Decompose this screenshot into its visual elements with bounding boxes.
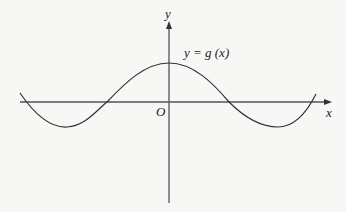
origin-label: O: [156, 104, 166, 119]
curve-g: [20, 63, 316, 127]
y-axis-arrow-icon: [166, 21, 172, 29]
x-axis-label: x: [325, 105, 332, 120]
function-graph: y x O y = g (x): [0, 0, 346, 212]
y-axis-label: y: [163, 6, 171, 21]
curve-label: y = g (x): [182, 45, 229, 60]
